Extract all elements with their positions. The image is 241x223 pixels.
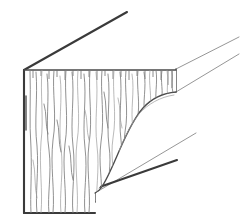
drawing-canvas: Wood Molding End Profile Line drawing of…: [0, 0, 241, 223]
molding-profile-drawing: Wood Molding End Profile Line drawing of…: [0, 0, 241, 223]
